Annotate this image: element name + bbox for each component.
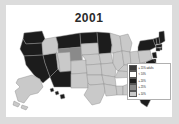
state-IA (99, 53, 113, 64)
legend-item-1: < 10% (129, 72, 169, 78)
state-CO (71, 60, 87, 74)
state-NM (71, 73, 88, 88)
state-NY (138, 39, 156, 51)
state-OK (87, 75, 104, 85)
state-AK (15, 75, 43, 103)
legend-label-2: ≥ 20% (139, 80, 146, 83)
state-MN (97, 32, 112, 54)
chart-title: 2001 (6, 11, 172, 25)
state-HI-1 (50, 88, 54, 92)
state-ME (159, 31, 165, 44)
legend-item-0: ≥ 15% adults (129, 65, 169, 71)
state-MO (101, 63, 116, 77)
legend-label-1: < 10% (139, 73, 146, 76)
legend-item-4: ≥ 10% (129, 91, 169, 97)
legend-swatch-icon-4 (129, 91, 137, 98)
figure-canvas: 2001 (6, 5, 172, 117)
state-MS (116, 86, 123, 95)
map-legend: ≥ 15% adults < 10% ≥ 20% ≥ 25% ≥ 10% (127, 63, 171, 100)
legend-label-4: ≥ 10% (139, 93, 146, 96)
legend-label-3: ≥ 25% (139, 86, 146, 89)
figure-frame: 2001 (0, 0, 179, 124)
state-NJ (152, 52, 157, 58)
legend-item-3: ≥ 25% (129, 85, 169, 91)
state-KS (86, 64, 102, 75)
legend-label-0: ≥ 15% adults (139, 67, 154, 70)
state-MT (56, 33, 81, 49)
state-HI-3 (60, 94, 65, 99)
state-CT (156, 48, 160, 51)
state-AK-aleutians-1 (13, 101, 20, 107)
legend-item-2: ≥ 20% (129, 78, 169, 84)
state-WA (23, 31, 45, 44)
state-LA (104, 84, 117, 96)
state-ID (42, 37, 58, 55)
state-MI (120, 34, 132, 52)
state-HI-2 (55, 91, 59, 95)
state-AK-aleutians-2 (21, 105, 28, 110)
